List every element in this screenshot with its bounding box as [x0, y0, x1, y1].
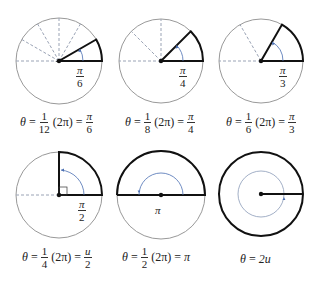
- equals-sign: =: [177, 115, 184, 130]
- caption-pi: θ = 12 (2π) = π: [122, 245, 190, 270]
- caption-pi-over-3: θ = 16 (2π) = π3: [226, 110, 296, 135]
- theta-symbol: θ: [22, 250, 28, 265]
- label-denominator: 4: [180, 77, 186, 89]
- equals-sign: =: [29, 115, 36, 130]
- label-numerator: π: [78, 198, 86, 211]
- equals-sign: =: [235, 115, 242, 130]
- caption-2pi: θ = 2u: [240, 252, 271, 267]
- result-value: 2u: [259, 252, 271, 267]
- result-numerator: π: [288, 110, 296, 123]
- label-pi-over-4: π4: [179, 64, 187, 89]
- theta-symbol: θ: [240, 252, 246, 267]
- fraction-denominator: 4: [42, 258, 48, 270]
- fraction-denominator: 6: [246, 123, 252, 135]
- equals-sign: =: [134, 115, 141, 130]
- panel-pi-over-2: [16, 152, 102, 238]
- result-value: π: [184, 250, 190, 265]
- label-denominator: 2: [79, 211, 85, 223]
- label-pi-over-2: π2: [78, 198, 86, 223]
- result-denominator: 4: [188, 123, 194, 135]
- equals-sign: =: [249, 252, 256, 267]
- fraction-numerator: 1: [141, 245, 149, 258]
- equals-sign: =: [131, 250, 138, 265]
- label-denominator: 6: [77, 77, 83, 89]
- result-denominator: 2: [85, 258, 91, 270]
- equals-sign: =: [74, 250, 81, 265]
- fraction-numerator: 1: [144, 110, 152, 123]
- label-denominator: 3: [280, 77, 286, 89]
- caption-pi-over-2: θ = 14 (2π) = u2: [22, 245, 92, 270]
- theta-symbol: θ: [122, 250, 128, 265]
- fraction-numerator: 1: [41, 245, 49, 258]
- two-pi: (2π): [53, 115, 73, 130]
- label-numerator: π: [76, 64, 84, 77]
- result-numerator: π: [86, 110, 94, 123]
- label-pi: π: [155, 204, 161, 216]
- label-numerator: π: [279, 64, 287, 77]
- label-pi-over-6: π6: [76, 64, 84, 89]
- equals-sign: =: [174, 250, 181, 265]
- two-pi: (2π): [154, 115, 174, 130]
- label-pi-over-3: π3: [279, 64, 287, 89]
- panel-pi-over-3: [219, 19, 303, 103]
- panel-2pi: [219, 152, 303, 236]
- fraction-denominator: 8: [145, 123, 151, 135]
- fraction-denominator: 2: [142, 258, 148, 270]
- result-denominator: 6: [87, 123, 93, 135]
- equals-sign: =: [76, 115, 83, 130]
- result-numerator: u: [84, 245, 92, 258]
- caption-pi-over-6: θ = 112 (2π) = π6: [20, 110, 93, 135]
- result-numerator: π: [187, 110, 195, 123]
- equals-sign: =: [278, 115, 285, 130]
- fraction-numerator: 1: [245, 110, 253, 123]
- theta-symbol: θ: [125, 115, 131, 130]
- equals-sign: =: [31, 250, 38, 265]
- panel-pi-over-6: [16, 18, 102, 104]
- fraction-numerator: 1: [40, 110, 48, 123]
- theta-symbol: θ: [20, 115, 26, 130]
- caption-pi-over-4: θ = 18 (2π) = π4: [125, 110, 195, 135]
- fraction-denominator: 12: [39, 123, 50, 135]
- result-denominator: 3: [289, 123, 295, 135]
- panel-pi-over-4: [119, 19, 203, 103]
- label-numerator: π: [179, 64, 187, 77]
- theta-symbol: θ: [226, 115, 232, 130]
- angle-diagram: [0, 0, 318, 287]
- two-pi: (2π): [151, 250, 171, 265]
- two-pi: (2π): [255, 115, 275, 130]
- panel-pi: [117, 151, 205, 239]
- two-pi: (2π): [51, 250, 71, 265]
